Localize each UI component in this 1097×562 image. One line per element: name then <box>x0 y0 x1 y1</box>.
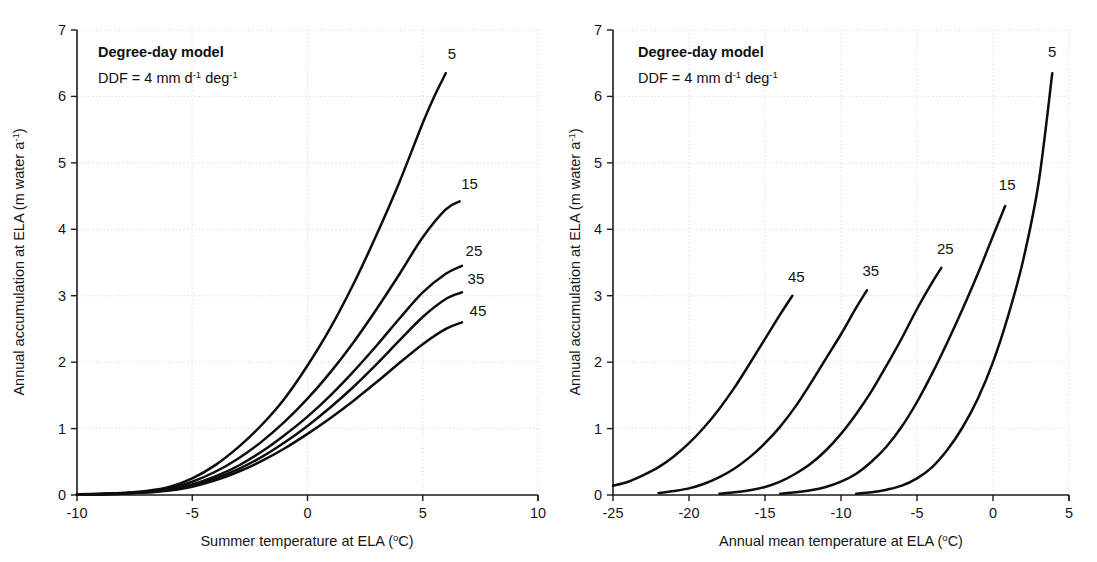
y-tick-label: 4 <box>58 221 66 237</box>
y-axis-exp-right: -1 <box>566 133 577 141</box>
gridlines-right <box>613 30 1069 495</box>
ddf-exp1-right: -1 <box>733 69 741 80</box>
panel-annotation-sub-right: DDF = 4 mm d-1 deg-1 <box>638 69 778 86</box>
y-tick-label: 0 <box>594 487 602 503</box>
series-label: 45 <box>788 268 805 285</box>
x-tick-label: -5 <box>186 505 199 521</box>
data-curve <box>659 290 867 493</box>
y-tick-label: 5 <box>58 155 66 171</box>
y-axis-title-main-left: Annual accumulation at ELA (m water a <box>11 141 27 396</box>
y-tick-label: 7 <box>58 22 66 38</box>
chart-panel-left: 01234567-10-50510 515253545 Degree-day m… <box>0 0 556 562</box>
y-tick-label: 6 <box>58 88 66 104</box>
ddf-text-right: DDF = 4 mm d <box>638 70 733 86</box>
y-tick-label: 5 <box>594 155 602 171</box>
y-tick-label: 3 <box>594 288 602 304</box>
series-label: 25 <box>937 240 954 257</box>
series-label: 15 <box>999 176 1016 193</box>
y-axis-title-main-right: Annual accumulation at ELA (m water a <box>567 141 583 396</box>
series-label: 5 <box>448 45 456 62</box>
x-axis-title-main-left: Summer temperature at ELA ( <box>200 533 393 549</box>
x-tick-label: -5 <box>911 505 924 521</box>
panel-annotation-title-right: Degree-day model <box>638 44 764 60</box>
series-label: 15 <box>461 175 478 192</box>
x-axis-title-tail-left: C) <box>398 533 413 549</box>
y-axis-title-right: Annual accumulation at ELA (m water a-1) <box>566 128 583 395</box>
y-axis-title-left: Annual accumulation at ELA (m water a-1) <box>10 128 27 395</box>
y-tick-label: 1 <box>594 421 602 437</box>
series-labels-left: 515253545 <box>448 45 487 319</box>
ddf-exp2-left: -1 <box>229 69 237 80</box>
chart-svg-left: 01234567-10-50510 515253545 Degree-day m… <box>0 0 556 562</box>
data-curve <box>77 322 462 494</box>
x-tick-label: -15 <box>755 505 776 521</box>
ddf-text-left: DDF = 4 mm d <box>98 70 193 86</box>
y-axis-exp-left: -1 <box>10 133 21 141</box>
y-tick-label: 2 <box>58 354 66 370</box>
x-axis-title-right: Annual mean temperature at ELA (oC) <box>719 532 963 549</box>
y-tick-label: 1 <box>58 421 66 437</box>
data-curve <box>613 296 792 486</box>
panel-annotation-title-left: Degree-day model <box>98 44 224 60</box>
x-tick-label: 0 <box>303 505 311 521</box>
series-labels-right: 453525155 <box>788 43 1056 285</box>
y-tick-label: 4 <box>594 221 602 237</box>
curves-right <box>613 73 1052 493</box>
x-tick-label: -10 <box>831 505 852 521</box>
figure-root: 01234567-10-50510 515253545 Degree-day m… <box>0 0 1097 562</box>
ticks-right <box>607 30 1069 501</box>
data-curve <box>856 73 1052 493</box>
ddf-mid-right: deg <box>741 70 769 86</box>
y-axis-title-tail-right: ) <box>567 128 583 133</box>
x-tick-label: 5 <box>1065 505 1073 521</box>
y-tick-label: 6 <box>594 88 602 104</box>
data-curve <box>780 206 1005 494</box>
data-curve <box>77 292 462 494</box>
panel-annotation-sub-left: DDF = 4 mm d-1 deg-1 <box>98 69 238 86</box>
data-curve <box>719 268 941 494</box>
ddf-exp2-right: -1 <box>769 69 777 80</box>
series-label: 45 <box>470 302 487 319</box>
x-tick-label: -25 <box>603 505 624 521</box>
series-label: 35 <box>468 270 485 287</box>
y-tick-label: 2 <box>594 354 602 370</box>
x-tick-label: 5 <box>419 505 427 521</box>
y-tick-label: 0 <box>58 487 66 503</box>
chart-panel-right: 01234567-25-20-15-10-505 453525155 Degre… <box>556 0 1097 562</box>
ddf-mid-left: deg <box>201 70 229 86</box>
data-curve <box>77 266 462 495</box>
x-axis-title-main-right: Annual mean temperature at ELA ( <box>719 533 942 549</box>
ddf-exp1-left: -1 <box>193 69 201 80</box>
x-tick-label: 0 <box>989 505 997 521</box>
series-label: 5 <box>1048 43 1056 60</box>
x-tick-label: -20 <box>679 505 700 521</box>
y-tick-label: 3 <box>58 288 66 304</box>
x-axis-title-tail-right: C) <box>948 533 963 549</box>
series-label: 35 <box>862 262 879 279</box>
x-tick-label: 10 <box>530 505 546 521</box>
curves-left <box>77 73 462 494</box>
y-tick-label: 7 <box>594 22 602 38</box>
data-curve <box>77 73 446 494</box>
ticks-left <box>71 30 538 501</box>
y-axis-title-tail-left: ) <box>11 128 27 133</box>
x-tick-label: -10 <box>67 505 88 521</box>
chart-svg-right: 01234567-25-20-15-10-505 453525155 Degre… <box>556 0 1097 562</box>
data-curve <box>77 201 460 494</box>
x-axis-title-left: Summer temperature at ELA (oC) <box>200 532 413 549</box>
series-label: 25 <box>466 242 483 259</box>
